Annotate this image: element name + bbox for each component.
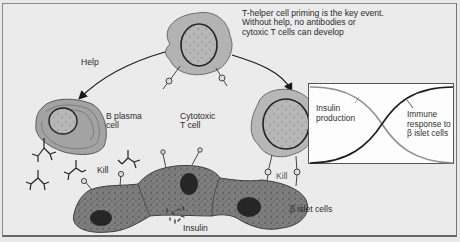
- inset-chart: Insulin production Immune response to β …: [308, 83, 454, 164]
- b-plasma-cell: [36, 99, 107, 154]
- immune-leader-line: [407, 100, 413, 108]
- cytotoxic-t-cell: [251, 89, 315, 156]
- kill-label-right: Kill: [276, 172, 287, 181]
- headline-text: T-helper cell priming is the key event. …: [242, 9, 384, 37]
- immune-response-label: Immune response to β islet cells: [407, 110, 451, 139]
- insulin-label: Insulin: [183, 224, 208, 233]
- help-label: Help: [81, 58, 99, 67]
- insulin-production-label: Insulin production: [316, 104, 355, 123]
- cytotoxic-arrow: [232, 55, 291, 90]
- cytotoxic-t-cell-label: Cytotoxic T cell: [180, 112, 215, 131]
- b-plasma-cell-label: B plasma cell: [106, 112, 142, 131]
- beta-islet-cells-label: β islet cells: [290, 205, 332, 214]
- t-helper-cell: [166, 12, 232, 74]
- kill-label-left: Kill: [97, 166, 108, 175]
